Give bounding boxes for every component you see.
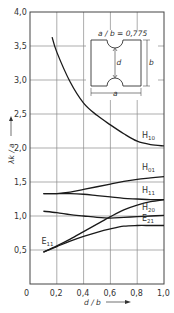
inset-a-label: a <box>113 89 118 98</box>
y-tick: 4,0 <box>14 8 27 17</box>
inset-d-label: d <box>117 58 122 67</box>
y-axis-arrow-icon <box>9 116 13 121</box>
x-tick: 0,6 <box>103 289 116 298</box>
svg-text:λk / a: λk / a <box>7 143 16 165</box>
x-tick-labels: 00,20,40,60,81,0 <box>24 289 170 298</box>
x-tick: 0,4 <box>77 289 90 298</box>
y-tick-labels: 0,51,01,52,02,53,03,54,0 <box>14 8 27 255</box>
x-tick: 1,0 <box>157 289 170 298</box>
x-tick: 0,2 <box>50 289 63 298</box>
curve-labels: H10H01H11H20E21E11 <box>41 131 155 247</box>
svg-text:d / b: d / b <box>84 298 101 307</box>
x-tick: 0 <box>24 289 29 298</box>
y-tick: 0,5 <box>14 246 27 255</box>
label-h10: H10 <box>142 131 156 141</box>
label-h01: H01 <box>142 163 155 173</box>
inset-ridge-waveguide-diagram: a / b = 0,775 d b a <box>86 29 158 100</box>
y-tick: 1,5 <box>14 178 27 187</box>
label-e11: E11 <box>41 237 53 247</box>
y-tick: 3,0 <box>14 76 27 85</box>
label-h11: H11 <box>142 186 155 196</box>
inset-b-label: b <box>149 58 154 67</box>
inset-ratio-label: a / b = 0,775 <box>98 29 147 38</box>
waveguide-cutoff-chart: 0,51,01,52,02,53,03,54,0 00,20,40,60,81,… <box>0 0 174 313</box>
x-axis-label: d / b <box>84 298 131 307</box>
y-tick: 1,0 <box>14 212 27 221</box>
y-axis-label: λk / a <box>7 116 16 165</box>
label-h20: H20 <box>142 203 156 213</box>
y-tick: 3,5 <box>14 42 27 51</box>
y-tick: 2,5 <box>14 110 27 119</box>
x-tick: 0,8 <box>130 289 143 298</box>
curve-e21 <box>43 225 164 252</box>
x-axis-arrow-icon <box>125 300 131 304</box>
